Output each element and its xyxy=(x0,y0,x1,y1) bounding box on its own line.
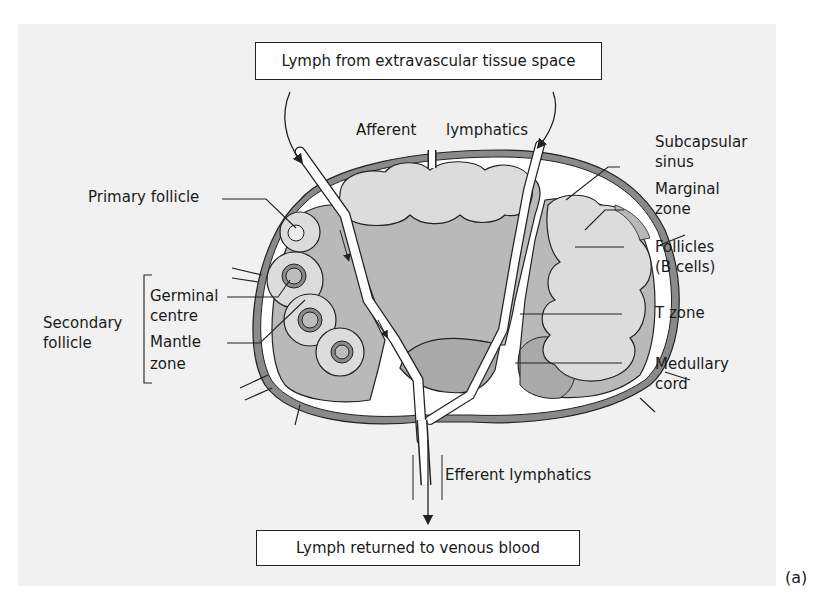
panel-tag: (a) xyxy=(785,568,807,587)
label-marginal-2: zone xyxy=(655,200,691,219)
label-germinal-1: Germinal xyxy=(150,287,218,306)
label-secondary-follicle-2: follicle xyxy=(43,334,92,353)
source-box: Lymph from extravascular tissue space xyxy=(255,42,602,80)
label-medullary-1: Medullary xyxy=(655,355,729,374)
label-marginal-1: Marginal xyxy=(655,180,720,199)
label-germinal-2: centre xyxy=(150,307,198,326)
destination-box: Lymph returned to venous blood xyxy=(256,530,580,566)
label-lymphatics: lymphatics xyxy=(446,121,528,140)
label-t-zone: T zone xyxy=(655,304,705,323)
label-afferent: Afferent xyxy=(356,121,416,140)
label-follicles-2: (B cells) xyxy=(655,258,715,277)
label-subcapsular-1: Subcapsular xyxy=(655,133,747,152)
destination-box-text: Lymph returned to venous blood xyxy=(296,539,540,557)
label-primary-follicle: Primary follicle xyxy=(88,188,199,207)
label-follicles-1: Follicles xyxy=(655,238,714,257)
label-efferent-lymphatics: Efferent lymphatics xyxy=(445,466,591,485)
source-box-text: Lymph from extravascular tissue space xyxy=(281,52,575,70)
label-mantle-2: zone xyxy=(150,355,186,374)
label-subcapsular-2: sinus xyxy=(655,153,694,172)
label-mantle-1: Mantle xyxy=(150,333,201,352)
label-medullary-2: cord xyxy=(655,375,688,394)
top-follicles xyxy=(339,162,532,226)
label-secondary-follicle-1: Secondary xyxy=(43,314,122,333)
